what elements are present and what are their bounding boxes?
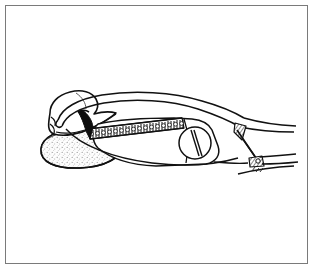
joint-hatching-lower [249,156,264,167]
upper-handle-arm [240,118,296,132]
figure-illustration: Line-art illustration of a serrated surg… [6,6,307,263]
illustration-page: Line-art illustration of a serrated surg… [0,0,314,270]
shank-lower-edge [214,162,248,163]
lower-handle-prongs [238,154,298,174]
joint-hatching-upper [234,123,246,140]
hinge-screw [179,127,211,159]
